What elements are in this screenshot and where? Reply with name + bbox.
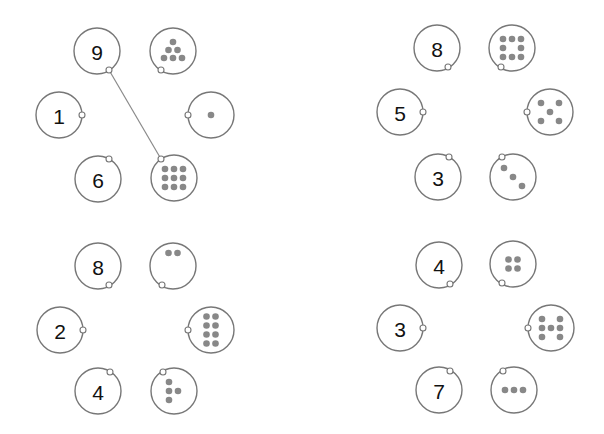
dots-node[interactable] [525, 305, 574, 351]
dot-icon [212, 340, 219, 347]
connector-port[interactable] [107, 369, 113, 375]
dots-node[interactable] [151, 155, 197, 201]
number-node[interactable]: 6 [75, 156, 121, 202]
number-label: 8 [431, 38, 443, 61]
dots-node[interactable] [150, 28, 196, 74]
dot-icon [166, 388, 173, 395]
dot-icon [501, 165, 508, 172]
connector-port[interactable] [158, 67, 164, 73]
dot-icon [212, 331, 219, 338]
connector-port[interactable] [499, 280, 505, 286]
connector-port[interactable] [447, 368, 453, 374]
number-node[interactable]: 1 [36, 92, 85, 138]
number-node[interactable]: 4 [75, 368, 121, 414]
dot-icon [514, 265, 521, 272]
dot-icon [505, 265, 512, 272]
connector-port[interactable] [106, 67, 112, 73]
number-node[interactable]: 8 [75, 243, 121, 289]
dots-node[interactable] [185, 92, 234, 138]
dots-circle[interactable] [489, 25, 535, 71]
number-node[interactable]: 4 [416, 242, 462, 288]
number-node[interactable]: 8 [414, 25, 460, 71]
dot-icon [520, 387, 527, 394]
dot-icon [509, 54, 516, 61]
connector-port[interactable] [106, 282, 112, 288]
connector-port[interactable] [525, 325, 531, 331]
dots-circle[interactable] [188, 307, 234, 353]
dot-icon [538, 100, 545, 107]
connector-port[interactable] [445, 64, 451, 70]
dot-icon [518, 54, 525, 61]
dot-icon [556, 100, 563, 107]
connector-port[interactable] [106, 156, 112, 162]
dot-icon [500, 36, 507, 43]
connector-port[interactable] [446, 154, 452, 160]
dot-icon [174, 250, 181, 257]
connector-port[interactable] [185, 327, 191, 333]
number-label: 9 [91, 41, 103, 64]
connector-port[interactable] [159, 282, 165, 288]
dot-icon [518, 36, 525, 43]
dot-icon [179, 55, 186, 62]
number-node[interactable]: 5 [377, 89, 426, 135]
dot-icon [557, 316, 564, 323]
dot-icon [509, 36, 516, 43]
dots-node[interactable] [185, 307, 234, 353]
dots-node[interactable] [524, 89, 573, 135]
dot-icon [180, 175, 187, 182]
connection-line[interactable] [109, 70, 161, 159]
number-node[interactable]: 9 [74, 28, 120, 74]
number-label: 5 [394, 102, 406, 125]
number-label: 8 [92, 256, 104, 279]
dots-circle[interactable] [151, 368, 197, 414]
dots-node[interactable] [490, 154, 536, 200]
dot-icon [180, 166, 187, 173]
dot-icon [500, 54, 507, 61]
dot-icon [166, 379, 173, 386]
dots-circle[interactable] [490, 241, 536, 287]
number-label: 3 [394, 318, 406, 341]
dots-node[interactable] [491, 367, 537, 413]
dots-node[interactable] [151, 368, 197, 414]
number-node[interactable]: 3 [377, 305, 426, 351]
dot-icon [502, 387, 509, 394]
dot-icon [203, 340, 210, 347]
dot-icon [180, 184, 187, 191]
dot-icon [174, 47, 181, 54]
number-node[interactable]: 7 [416, 367, 462, 413]
connector-port[interactable] [420, 109, 426, 115]
connector-port[interactable] [420, 325, 426, 331]
dots-node[interactable] [150, 243, 196, 289]
connector-port[interactable] [498, 64, 504, 70]
connector-port[interactable] [80, 327, 86, 333]
dot-icon [166, 397, 173, 404]
dot-icon [162, 184, 169, 191]
connector-port[interactable] [79, 112, 85, 118]
dots-node[interactable] [489, 25, 535, 71]
connector-port[interactable] [499, 154, 505, 160]
dot-icon [162, 175, 169, 182]
connector-port[interactable] [524, 109, 530, 115]
dot-icon [547, 109, 554, 116]
dot-icon [203, 313, 210, 320]
dot-icon [171, 175, 178, 182]
connector-port[interactable] [500, 368, 506, 374]
connector-port[interactable] [185, 112, 191, 118]
dot-icon [557, 325, 564, 332]
connector-port[interactable] [158, 156, 164, 162]
dots-node[interactable] [490, 241, 536, 287]
number-label: 4 [92, 381, 104, 404]
dot-icon [510, 174, 517, 181]
dots-circle[interactable] [150, 28, 196, 74]
dot-icon [548, 325, 555, 332]
dot-icon [518, 45, 525, 52]
number-node[interactable]: 3 [415, 154, 461, 200]
dot-icon [161, 55, 168, 62]
dots-circle[interactable] [150, 243, 196, 289]
number-node[interactable]: 2 [37, 307, 86, 353]
connector-port[interactable] [160, 369, 166, 375]
dot-icon [165, 250, 172, 257]
dot-icon [162, 166, 169, 173]
connector-port[interactable] [447, 281, 453, 287]
dot-icon [212, 313, 219, 320]
